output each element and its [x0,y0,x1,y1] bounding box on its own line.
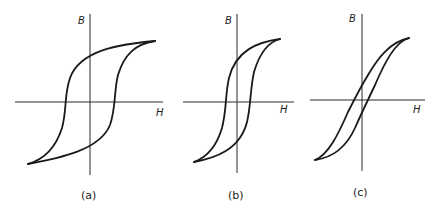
panel-b: B H (b) [183,14,294,202]
hysteresis-figure: B H (a) B H (b) B H (c) [0,0,439,209]
panel-b-h-label: H [280,104,288,115]
panel-c: B H (c) [310,13,425,199]
panel-a-b-label: B [78,15,85,26]
panel-c-h-label: H [413,104,421,115]
panel-a: B H (a) [15,14,164,202]
panel-b-b-label: B [225,15,232,26]
panel-c-caption: (c) [353,186,368,199]
panel-a-caption: (a) [81,189,96,202]
panel-b-caption: (b) [228,189,244,202]
panel-a-h-label: H [156,107,164,118]
panel-c-b-label: B [349,13,356,24]
